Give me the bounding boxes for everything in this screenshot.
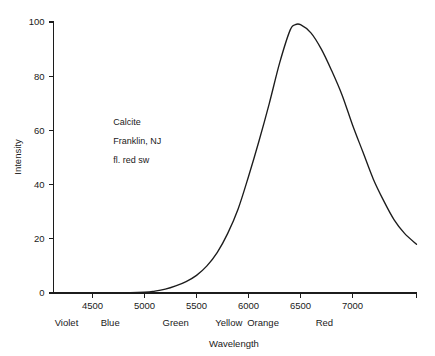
color-band-label: Yellow [215,317,242,328]
y-tick-label: 0 [39,287,44,298]
color-band-label: Red [316,317,333,328]
spectrum-chart-figure: 020406080100 450050005500600065007000 Vi… [0,0,435,356]
y-axis-title: Intensity [12,139,23,175]
y-tick-label: 60 [34,125,45,136]
annotation-text-line: fl. red sw [113,155,150,165]
x-axis-title: Wavelength [209,338,259,349]
emission-curve [54,24,417,293]
y-axis-ticks: 020406080100 [29,16,54,298]
y-tick-label: 100 [29,16,45,27]
annotation-text-line: Franklin, NJ [113,136,161,146]
x-tick-label: 4500 [82,300,103,311]
x-axis-ticks: 450050005500600065007000 [82,293,417,311]
color-band-label: Orange [247,317,279,328]
color-band-label: Violet [55,317,79,328]
x-tick-label: 5000 [134,300,155,311]
y-tick-label: 80 [34,71,45,82]
x-tick-label: 6000 [238,300,259,311]
annotation-text-line: Calcite [113,117,141,127]
x-tick-label: 7000 [342,300,363,311]
y-tick-label: 40 [34,179,45,190]
color-band-label: Blue [101,317,120,328]
sample-annotation: CalciteFranklin, NJfl. red sw [113,117,161,165]
color-band-labels: VioletBlueGreenYellowOrangeRed [55,317,333,328]
x-tick-label: 6500 [290,300,311,311]
x-tick-label: 5500 [186,300,207,311]
color-band-label: Green [163,317,189,328]
chart-canvas: 020406080100 450050005500600065007000 Vi… [0,0,435,356]
y-tick-label: 20 [34,233,45,244]
